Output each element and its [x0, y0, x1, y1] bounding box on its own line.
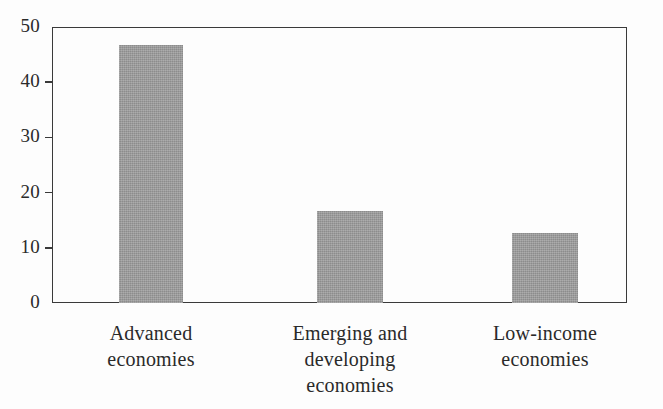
- y-axis-tick-mark: [45, 81, 52, 83]
- y-axis-tick-label: 20: [21, 182, 40, 201]
- x-axis-category-labels: Advanced economiesEmerging and developin…: [52, 306, 627, 406]
- bar: [119, 45, 183, 303]
- y-axis-tick-mark: [45, 247, 52, 249]
- bar-chart-figure: 50403020100 Advanced economiesEmerging a…: [0, 0, 663, 409]
- y-axis-tick-mark: [45, 192, 52, 194]
- bar: [512, 233, 578, 303]
- bars-layer: [52, 27, 627, 303]
- y-axis-tick-mark: [45, 137, 52, 139]
- x-axis-category-label: Low-income economies: [450, 320, 640, 372]
- y-axis-tick-label: 30: [21, 126, 40, 145]
- y-axis-tick-label: 40: [21, 71, 40, 90]
- x-axis-category-label: Advanced economies: [56, 320, 246, 372]
- y-axis-tick-label: 10: [21, 237, 40, 256]
- bar: [317, 211, 383, 303]
- y-axis-tick-label: 0: [30, 292, 40, 311]
- x-axis-category-label: Emerging and developing economies: [255, 320, 445, 398]
- y-axis: 50403020100: [0, 27, 52, 303]
- y-axis-tick-label: 50: [21, 16, 40, 35]
